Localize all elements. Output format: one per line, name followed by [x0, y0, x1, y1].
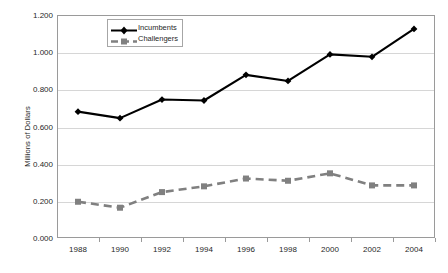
data-point-marker[interactable] — [75, 108, 82, 115]
data-point-marker[interactable] — [117, 115, 124, 122]
data-point-marker[interactable] — [243, 176, 249, 182]
data-point-marker[interactable] — [75, 199, 81, 205]
data-point-marker[interactable] — [327, 170, 333, 176]
data-point-marker[interactable] — [369, 182, 375, 188]
data-point-marker[interactable] — [411, 182, 417, 188]
data-point-marker[interactable] — [117, 205, 123, 211]
legend-label-incumbents: Incumbents — [137, 22, 177, 33]
data-point-marker[interactable] — [159, 96, 166, 103]
legend: Incumbents Challengers — [107, 19, 183, 47]
legend-swatch-incumbents — [111, 22, 137, 33]
series-challengers — [75, 170, 417, 210]
legend-item-incumbents[interactable]: Incumbents — [111, 22, 178, 33]
data-point-marker[interactable] — [285, 178, 291, 184]
data-point-marker[interactable] — [159, 189, 165, 195]
legend-label-challengers: Challengers — [137, 33, 178, 44]
data-point-marker[interactable] — [201, 183, 207, 189]
series-layer — [0, 0, 448, 273]
legend-item-challengers[interactable]: Challengers — [111, 33, 178, 44]
legend-swatch-challengers — [111, 33, 137, 44]
line-chart: Millions of Dollars 0.0000.2000.4000.600… — [0, 0, 448, 273]
